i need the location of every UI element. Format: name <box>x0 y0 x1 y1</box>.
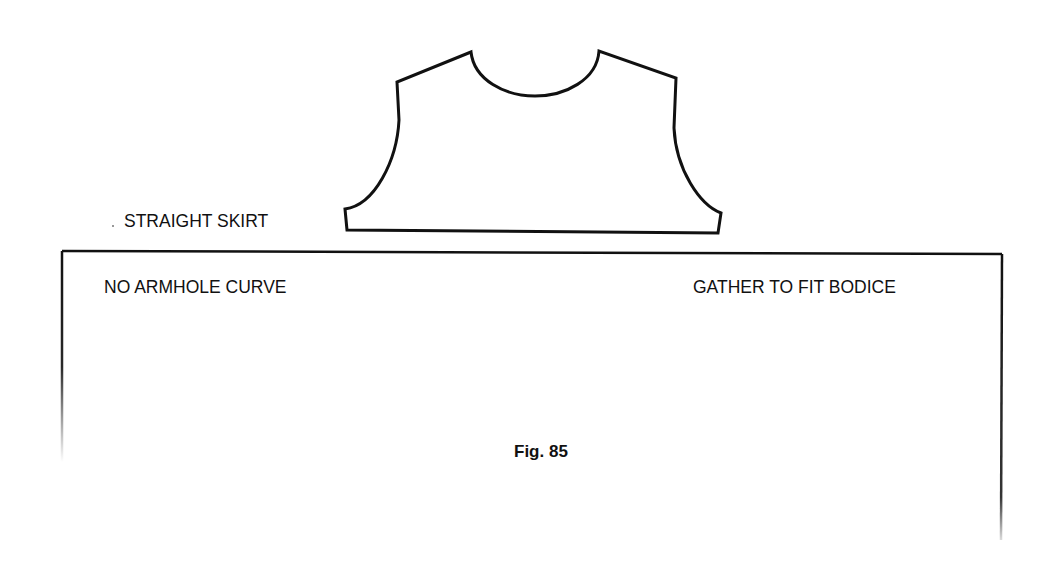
figure-caption: Fig. 85 <box>514 442 568 462</box>
no-armhole-curve-note: NO ARMHOLE CURVE <box>104 277 287 297</box>
skirt-type-label: STRAIGHT SKIRT <box>124 211 268 231</box>
print-speck <box>112 225 114 227</box>
gather-to-fit-bodice-note: GATHER TO FIT BODICE <box>693 277 896 297</box>
bodice-outline <box>345 51 721 233</box>
skirt-right-edge <box>1001 254 1002 540</box>
skirt-top-edge <box>62 251 1002 254</box>
